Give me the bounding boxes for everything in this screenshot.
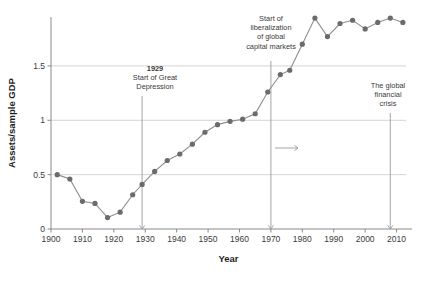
data-point <box>240 117 245 122</box>
data-point <box>400 20 405 25</box>
annotation-line-capital-liberalization-2: of global <box>257 32 285 41</box>
gdp-assets-line-chart: 1900191019201930194019501960197019801990… <box>0 0 423 281</box>
annotation-line-capital-liberalization-0: Start of <box>259 14 284 23</box>
data-point <box>105 215 110 220</box>
x-tick-label-1940: 1940 <box>167 234 186 244</box>
y-axis-title: Assets/sample GDP <box>6 77 17 167</box>
x-tick-label-1990: 1990 <box>324 234 343 244</box>
data-point <box>118 210 123 215</box>
data-point <box>253 111 258 116</box>
data-point <box>67 176 72 181</box>
data-point <box>190 142 195 147</box>
annotation-line-great-depression-2: Depression <box>136 82 173 91</box>
y-tick-label-1.5: 1.5 <box>33 61 45 71</box>
data-point <box>80 199 85 204</box>
chart-container: 1900191019201930194019501960197019801990… <box>0 0 423 281</box>
annotation-line-global-financial-crisis-1: financial <box>374 90 401 99</box>
x-tick-label-2010: 2010 <box>387 234 406 244</box>
data-point <box>337 21 342 26</box>
data-point <box>388 15 393 20</box>
data-point <box>177 151 182 156</box>
data-point <box>55 172 60 177</box>
annotation-line-capital-liberalization-1: liberalization <box>250 23 291 32</box>
annotation-line-great-depression-1: Start of Great <box>133 73 177 82</box>
x-tick-label-1910: 1910 <box>73 234 92 244</box>
data-point <box>215 122 220 127</box>
data-point <box>227 119 232 124</box>
y-tick-label-0.5: 0.5 <box>33 170 45 180</box>
data-point <box>140 182 145 187</box>
x-tick-label-1950: 1950 <box>199 234 218 244</box>
data-point <box>165 158 170 163</box>
y-tick-label-0: 0 <box>40 224 45 234</box>
data-point <box>152 169 157 174</box>
data-point <box>363 26 368 31</box>
data-point <box>130 192 135 197</box>
annotation-line-global-financial-crisis-0: The global <box>371 81 406 90</box>
x-tick-label-2000: 2000 <box>356 234 375 244</box>
data-point <box>278 72 283 77</box>
x-tick-label-1900: 1900 <box>42 234 61 244</box>
data-point <box>202 130 207 135</box>
x-tick-label-1920: 1920 <box>104 234 123 244</box>
data-point <box>92 201 97 206</box>
data-point <box>312 15 317 20</box>
annotation-line-great-depression-0: 1929 <box>147 64 163 73</box>
data-point <box>325 34 330 39</box>
data-point <box>287 68 292 73</box>
data-point <box>265 89 270 94</box>
x-tick-label-1970: 1970 <box>261 234 280 244</box>
x-axis-title: Year <box>218 253 238 264</box>
x-tick-label-1980: 1980 <box>293 234 312 244</box>
x-tick-label-1930: 1930 <box>136 234 155 244</box>
annotation-line-global-financial-crisis-2: crisis <box>380 99 397 108</box>
data-point <box>350 18 355 23</box>
annotation-line-capital-liberalization-3: capital markets <box>246 42 296 51</box>
data-point <box>300 42 305 47</box>
x-tick-label-1960: 1960 <box>230 234 249 244</box>
y-tick-label-1: 1 <box>40 115 45 125</box>
data-point <box>375 20 380 25</box>
